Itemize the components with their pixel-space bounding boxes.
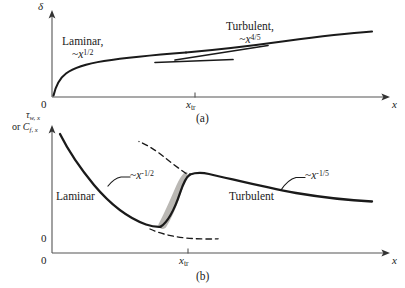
panel-b-cf-subscript: f, x bbox=[30, 126, 38, 133]
panel-b-laminar-dashed-extension bbox=[150, 229, 218, 239]
panel-a-turbulent-annotation: Turbulent, ~x4/5 bbox=[226, 20, 274, 46]
panel-b-turbulent-scaling-exponent: -1/5 bbox=[316, 169, 329, 178]
panel-b-turbulent-scaling-leader bbox=[281, 178, 305, 191]
panel-a-laminar-scaling: ~x1/2 bbox=[62, 48, 103, 61]
panel-b-turbulent-scaling-annotation: ~x-1/5 bbox=[305, 169, 329, 181]
panel-a-turbulent-scaling-exponent: 4/5 bbox=[251, 33, 261, 42]
panel-b-turbulent-curve bbox=[190, 173, 372, 202]
figure-vector-graphics bbox=[0, 0, 405, 288]
panel-b-x-axis bbox=[52, 250, 390, 257]
panel-b-laminar-label: Laminar bbox=[56, 190, 95, 202]
panel-a-laminar-name: Laminar, bbox=[62, 35, 103, 48]
panel-a-turbulent-scaling: ~x4/5 bbox=[226, 33, 274, 46]
panel-a-origin-label: 0 bbox=[41, 99, 47, 111]
panel-a-laminar-annotation: Laminar, ~x1/2 bbox=[62, 35, 103, 61]
panel-b-turbulent-label: Turbulent bbox=[229, 190, 274, 202]
panel-a-y-axis-label: δ bbox=[38, 1, 43, 13]
panel-a-laminar-scaling-exponent: 1/2 bbox=[83, 48, 93, 57]
panel-b-laminar-scaling-leader bbox=[108, 177, 130, 186]
panel-b-y-axis bbox=[49, 125, 56, 253]
panel-b-or-text: or bbox=[12, 121, 23, 132]
panel-b-laminar-scaling-annotation: ~x-1/2 bbox=[130, 169, 154, 181]
panel-b-graphics bbox=[49, 125, 390, 256]
panel-b-caption: (b) bbox=[196, 270, 209, 282]
panel-b-transition-shaded-region bbox=[160, 174, 186, 228]
panel-b-x-transition-label: xtr bbox=[179, 255, 188, 268]
panel-b-x-transition-sub: tr bbox=[184, 259, 189, 268]
panel-a-x-transition-label: xtr bbox=[186, 99, 195, 112]
panel-b-y-axis-label-line1: τw, x bbox=[26, 110, 40, 121]
boundary-layer-transition-figure: δ 0 x xtr Laminar, ~x1/2 Turbulent, ~x4/… bbox=[0, 0, 405, 288]
panel-a-x-axis-label: x bbox=[392, 99, 397, 111]
panel-b-laminar-scaling-exponent: -1/2 bbox=[141, 169, 154, 178]
panel-b-x-axis-label: x bbox=[392, 255, 397, 267]
panel-b-y-axis-label-line2: or Cf, x bbox=[12, 122, 38, 133]
panel-b-tau-subscript: w, x bbox=[30, 114, 40, 121]
panel-a-turbulent-curve bbox=[186, 32, 372, 53]
panel-a-turbulent-name: Turbulent, bbox=[226, 20, 274, 33]
panel-b-cf-symbol: C bbox=[23, 121, 30, 132]
panel-b-y-origin-label: 0 bbox=[41, 233, 47, 245]
panel-b-x-origin-label: 0 bbox=[41, 255, 47, 267]
panel-a-x-transition-sub: tr bbox=[191, 103, 196, 112]
panel-a-y-axis bbox=[49, 10, 56, 97]
panel-a-laminar-extension-segment bbox=[155, 60, 233, 63]
panel-a-caption: (a) bbox=[196, 112, 209, 124]
panel-a-x-axis bbox=[52, 94, 390, 101]
